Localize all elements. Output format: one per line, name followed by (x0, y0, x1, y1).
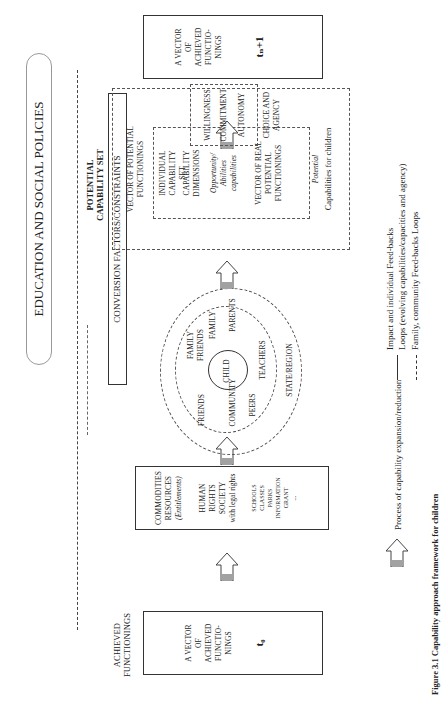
family-label: FAMILY (208, 305, 218, 345)
achieved-t0-line: OF (194, 612, 204, 674)
choice-agency-label: CHOICE AND AGENCY (262, 85, 282, 145)
choice-agency-box: WILLINGNESS COMMITMENT AUTONOMY (190, 84, 258, 146)
impact-feedback-line (77, 70, 78, 630)
legend-process-label: Process of capability expansion/reductio… (393, 380, 403, 530)
family-feedback-line (87, 325, 88, 435)
example-item: CLASSES (258, 467, 266, 529)
example-item: INFORMATION (274, 467, 282, 529)
achieved-t0-line: A VECTOR (184, 612, 194, 674)
commodities-label: COMMODITIES (154, 467, 164, 529)
parents-label: PARENTS (228, 290, 238, 340)
state-region-label: STATE/REGION (285, 340, 295, 400)
example-item: PARKS (266, 467, 274, 529)
achieved-t1-box: A VECTOR OF ACHIEVED FUNCTIO- NINGS tₙ+1 (143, 15, 323, 79)
achieved-t0-time: t₀ (254, 612, 264, 674)
rights-line: RIGHTS (208, 467, 218, 529)
legend-family-label: Family, community Feed-backs Loops (410, 212, 420, 350)
autonomy-label: AUTONOMY (237, 85, 247, 145)
achieved-t0-line: NINGS (224, 612, 234, 674)
legend-family-line (416, 355, 417, 380)
achieved-t0-line: ACHIEVED (204, 612, 214, 674)
rights-line: with legal rights (228, 467, 238, 529)
real-potential-label: VECTOR OF REAL POTENTIAL FUNCTIONINGS (254, 138, 284, 208)
policies-banner-label: EDUCATION AND SOCIAL POLICIES (32, 54, 46, 364)
teachers-label: TEACHERS (258, 335, 268, 385)
example-item: GRANT (282, 467, 290, 529)
family-friends-label: FAMILY FRIENDS (186, 325, 206, 365)
potential-italic-label: Potential (311, 119, 321, 219)
rights-line: HUMAN (198, 467, 208, 529)
potential-vector-label: VECTOR OF POTENTIAL FUNCTIONINGS (126, 119, 146, 219)
legend-expansion-arrow-icon (386, 539, 408, 567)
legend-impact-line (397, 355, 398, 380)
peers-label: PEERS (248, 385, 258, 425)
expansion-arrow-icon (216, 553, 238, 581)
rights-line: SOCIETY (218, 467, 228, 529)
achieved-t1-line: NINGS (214, 16, 224, 78)
willingness-label: WILLINGNESS (203, 85, 213, 145)
expansion-arrow-icon (216, 261, 238, 289)
achieved-t1-line: OF (184, 16, 194, 78)
achieved-t1-line: FUNCTIO- (204, 16, 214, 78)
commodities-box: COMMODITIES RESOURCES (Entitlements) HUM… (135, 466, 329, 530)
entitlements-label: (Entitlements) (174, 467, 184, 529)
policies-banner: EDUCATION AND SOCIAL POLICIES (26, 53, 52, 365)
capability-dimensions-label: CAPABILITY DIMENSIONS (182, 143, 202, 203)
achieved-t0-line: FUNCTIO- (214, 612, 224, 674)
community-label: COMMUNITY (228, 375, 238, 430)
example-item: ... (290, 467, 298, 529)
achieved-t1-line: A VECTOR (174, 16, 184, 78)
potential-capability-title: POTENTIAL CAPABILITY SET (85, 145, 105, 225)
legend-loops-label: Loops (evolving capabilities/capacities … (397, 164, 407, 350)
achieved-heading: ACHIEVED FUNCTIONINGS (112, 605, 132, 685)
figure-caption: Figure 3.1 Capability approach framework… (430, 494, 440, 695)
achieved-t0-box: A VECTOR OF ACHIEVED FUNCTIO- NINGS t₀ (143, 611, 323, 675)
friends-label: FRIENDS (197, 385, 207, 435)
capabilities-children-label: Capabilities for children (323, 109, 333, 229)
example-item: SCHOOLS (250, 467, 258, 529)
commodities-label: RESOURCES (164, 467, 174, 529)
commitment-label: COMMITMENT (219, 85, 229, 145)
diagram-canvas: EDUCATION AND SOCIAL POLICIES ACHIEVED F… (0, 0, 444, 705)
legend-impact-label: Impact and individual Feed-backs (385, 228, 395, 350)
achieved-t1-line: ACHIEVED (194, 16, 204, 78)
opportunity-label: Opportunity/ Abilities capabilities (209, 143, 239, 203)
achieved-t1-time: tₙ+1 (254, 16, 264, 78)
